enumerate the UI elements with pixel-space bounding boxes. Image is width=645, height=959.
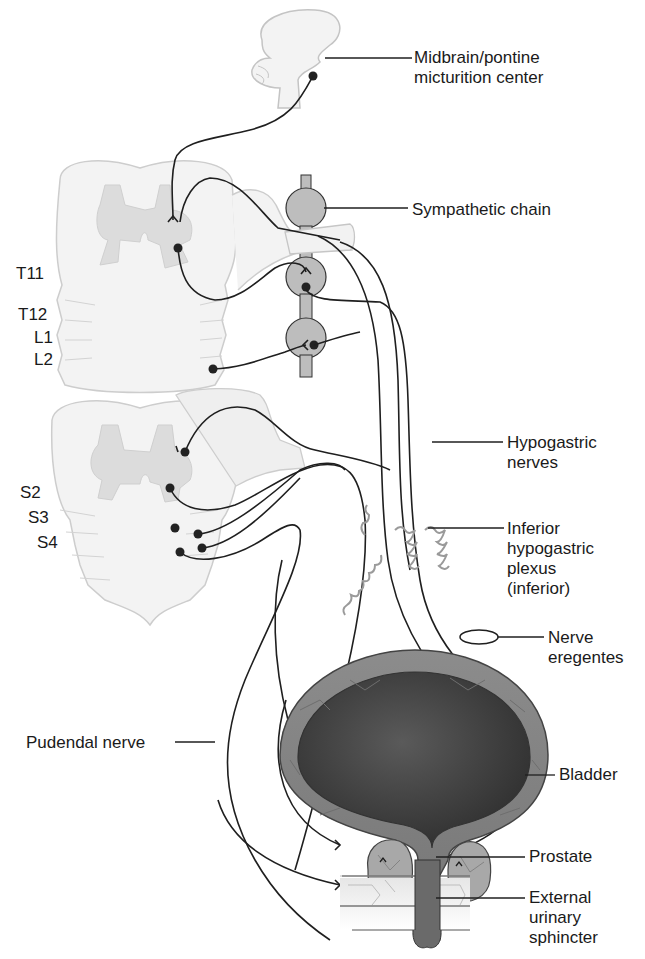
sympathetic-chain bbox=[285, 175, 355, 377]
segment-label-t12: T12 bbox=[18, 305, 47, 325]
nerve-eregentes-marker bbox=[460, 630, 498, 644]
segment-label-l2: L2 bbox=[34, 350, 53, 370]
label-prostate: Prostate bbox=[529, 847, 592, 867]
segment-label-l1: L1 bbox=[34, 328, 53, 348]
segment-label-s3: S3 bbox=[28, 508, 49, 528]
bladder bbox=[280, 650, 548, 875]
label-sympathetic-chain: Sympathetic chain bbox=[412, 200, 551, 220]
label-external-urinary-sphincter: External urinary sphincter bbox=[529, 888, 598, 948]
label-bladder: Bladder bbox=[559, 765, 618, 785]
segment-label-t11: T11 bbox=[16, 264, 44, 284]
label-nerve-eregentes: Nerve eregentes bbox=[548, 628, 624, 668]
label-inferior-hypogastric-plexus: Inferior hypogastric plexus (inferior) bbox=[507, 519, 594, 599]
segment-label-s4: S4 bbox=[37, 533, 58, 553]
sacral-cord bbox=[52, 389, 305, 625]
label-hypogastric-nerves: Hypogastric nerves bbox=[507, 433, 597, 473]
segment-label-s2: S2 bbox=[20, 483, 41, 503]
label-pudendal-nerve: Pudendal nerve bbox=[26, 733, 145, 753]
urinary-innervation-diagram bbox=[0, 0, 645, 959]
label-micturition-center: Midbrain/pontine micturition center bbox=[414, 48, 543, 88]
brainstem bbox=[252, 10, 340, 108]
